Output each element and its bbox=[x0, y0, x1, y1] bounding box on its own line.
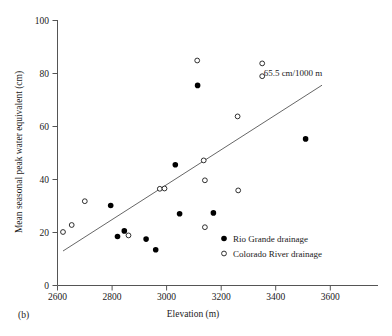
data-point bbox=[69, 223, 74, 228]
legend-label-rio-grande: Rio Grande drainage bbox=[233, 234, 308, 244]
trend-line bbox=[63, 85, 322, 251]
series-rio-grande-drainage bbox=[108, 83, 309, 253]
data-point bbox=[303, 136, 309, 142]
x-tick-label-2600: 2600 bbox=[48, 292, 67, 302]
y-axis-title: Mean seasonal peak water equivalent (cm) bbox=[14, 71, 25, 233]
data-point bbox=[260, 61, 265, 66]
data-point bbox=[236, 188, 241, 193]
figure-panel-b: 0 20 40 60 80 100 2600 2800 3000 3200 34… bbox=[0, 0, 392, 336]
x-tick-label-2800: 2800 bbox=[103, 292, 122, 302]
data-point bbox=[195, 83, 201, 89]
y-axis-tick-labels: 0 20 40 60 80 100 bbox=[35, 16, 50, 291]
data-point bbox=[82, 199, 87, 204]
legend-marker-colorado-river bbox=[222, 251, 227, 256]
x-axis-ticks bbox=[58, 286, 331, 291]
y-tick-label-40: 40 bbox=[40, 175, 50, 185]
x-axis-title: Elevation (m) bbox=[167, 309, 220, 320]
panel-label: (b) bbox=[18, 310, 29, 321]
y-axis-ticks bbox=[53, 21, 58, 286]
data-point bbox=[201, 158, 206, 163]
data-point bbox=[203, 178, 208, 183]
y-tick-label-80: 80 bbox=[40, 69, 50, 79]
data-point bbox=[162, 186, 167, 191]
x-axis-tick-labels: 2600 2800 3000 3200 3400 3600 bbox=[48, 292, 340, 302]
x-tick-label-3400: 3400 bbox=[266, 292, 285, 302]
x-tick-label-3200: 3200 bbox=[212, 292, 231, 302]
legend-label-colorado-river: Colorado River drainage bbox=[233, 249, 322, 259]
trend-slope-annotation: 65.5 cm/1000 m bbox=[264, 68, 323, 78]
data-point bbox=[126, 233, 131, 238]
x-tick-label-3000: 3000 bbox=[157, 292, 176, 302]
data-point bbox=[195, 58, 200, 63]
data-point bbox=[153, 247, 159, 253]
y-tick-label-0: 0 bbox=[44, 281, 49, 291]
data-point bbox=[173, 162, 179, 168]
chart-legend: Rio Grande drainage Colorado River drain… bbox=[221, 234, 322, 259]
data-point bbox=[211, 210, 217, 216]
data-point bbox=[115, 234, 121, 240]
data-point bbox=[122, 228, 128, 234]
data-point bbox=[235, 114, 240, 119]
series-colorado-river-drainage bbox=[61, 58, 265, 238]
scatter-chart: 0 20 40 60 80 100 2600 2800 3000 3200 34… bbox=[0, 0, 392, 336]
axes bbox=[58, 20, 379, 286]
data-point bbox=[61, 230, 66, 235]
data-point bbox=[108, 203, 114, 209]
y-tick-label-20: 20 bbox=[40, 228, 50, 238]
data-point bbox=[260, 74, 265, 79]
legend-marker-rio-grande bbox=[221, 236, 227, 242]
data-point bbox=[177, 211, 183, 217]
y-tick-label-60: 60 bbox=[40, 122, 50, 132]
data-point bbox=[157, 186, 162, 191]
data-point bbox=[143, 236, 149, 242]
x-tick-label-3600: 3600 bbox=[321, 292, 340, 302]
y-tick-label-100: 100 bbox=[35, 16, 50, 26]
data-point bbox=[203, 225, 208, 230]
